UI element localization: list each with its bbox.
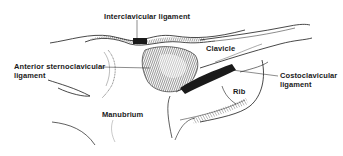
label-interclavicular-ligament: Interclavicular ligament <box>104 13 190 21</box>
label-rib: Rib <box>233 88 245 96</box>
label-anterior-sternoclavicular-line1: Anterior sternoclavicular <box>14 63 105 71</box>
label-costoclavicular-line1: Costoclavicular <box>280 72 337 80</box>
label-anterior-sternoclavicular-line2: ligament <box>14 72 46 80</box>
label-manubrium: Manubrium <box>102 111 143 119</box>
label-clavicle: Clavicle <box>206 45 235 53</box>
anatomy-figure: Interclavicular ligament Clavicle Anteri… <box>0 0 343 156</box>
label-costoclavicular-line2: ligament <box>280 81 312 89</box>
